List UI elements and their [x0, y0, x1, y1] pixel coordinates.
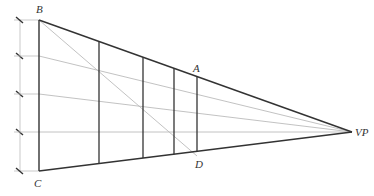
- edge-b-vp: [39, 20, 352, 132]
- dimension-line: [14, 20, 39, 171]
- construction-lines: [39, 20, 352, 156]
- label-b: B: [36, 3, 43, 15]
- dimension-ticks: [16, 17, 23, 174]
- label-c: C: [34, 177, 42, 189]
- vp-line-2: [39, 94, 352, 132]
- main-outline: [39, 20, 352, 171]
- label-vp: VP: [355, 126, 369, 138]
- label-a: A: [192, 62, 200, 74]
- vertical-divisions: [99, 42, 197, 164]
- diagonal-b-d: [39, 20, 197, 156]
- dimension-tick-extensions: [14, 56, 39, 132]
- label-d: D: [194, 158, 203, 170]
- perspective-diagram: B C A D VP: [0, 0, 374, 196]
